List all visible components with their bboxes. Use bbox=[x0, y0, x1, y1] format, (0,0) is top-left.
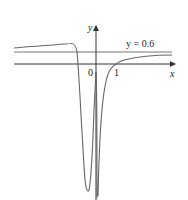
origin-label: 0 bbox=[88, 67, 93, 78]
x-axis-label: x bbox=[169, 68, 175, 79]
curve-left-branch bbox=[14, 43, 96, 191]
function-graph: y 0 1 x y = 0.6 bbox=[0, 0, 188, 200]
curve-right-branch bbox=[96, 55, 172, 198]
x-tick-label-1: 1 bbox=[114, 67, 119, 78]
y-axis-label: y bbox=[87, 22, 93, 33]
asymptote-label: y = 0.6 bbox=[126, 38, 154, 49]
